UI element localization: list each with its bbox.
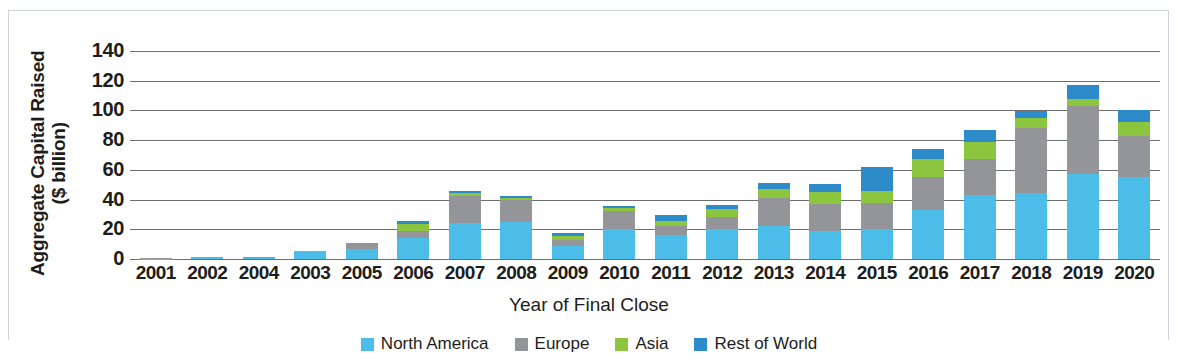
- bar-2018[interactable]: [1015, 111, 1047, 259]
- chart-legend: North AmericaEuropeAsiaRest of World: [0, 334, 1178, 354]
- bar-segment-2006-north-america: [397, 238, 429, 259]
- legend-item-rest-of-world[interactable]: Rest of World: [694, 334, 817, 354]
- bar-slot-2013: [748, 51, 800, 259]
- legend-swatch-asia: [615, 338, 628, 351]
- x-tick-label-2020: 2020: [1109, 262, 1161, 284]
- legend-item-asia[interactable]: Asia: [615, 334, 668, 354]
- y-tick-label-80: 80: [34, 128, 124, 151]
- x-tick-label-2014: 2014: [800, 262, 852, 284]
- bar-segment-2007-europe: [449, 196, 481, 223]
- x-tick-label-2016: 2016: [903, 262, 955, 284]
- bar-2001[interactable]: [140, 258, 172, 259]
- bar-2002[interactable]: [191, 257, 223, 259]
- bar-2004[interactable]: [243, 257, 275, 259]
- bar-segment-2017-north-america: [964, 195, 996, 259]
- bar-2009[interactable]: [552, 233, 584, 259]
- bar-slot-2005: [336, 51, 388, 259]
- x-axis-labels: 2001200220042003200520062007200820092010…: [130, 262, 1160, 284]
- page-border-left: [8, 10, 9, 340]
- x-axis-title: Year of Final Close: [0, 294, 1178, 316]
- bar-slot-2020: [1109, 51, 1161, 259]
- bar-2005[interactable]: [346, 243, 378, 259]
- bar-segment-2016-rest-of-world: [912, 149, 944, 159]
- bar-segment-2015-asia: [861, 191, 893, 203]
- x-tick-label-2004: 2004: [233, 262, 285, 284]
- bar-segment-2018-north-america: [1015, 193, 1047, 259]
- bar-segment-2013-rest-of-world: [758, 183, 790, 190]
- bar-slot-2002: [182, 51, 234, 259]
- bar-slot-2009: [542, 51, 594, 259]
- bar-2008[interactable]: [500, 196, 532, 259]
- bar-segment-2012-north-america: [706, 229, 738, 259]
- bar-segment-2008-north-america: [500, 222, 532, 259]
- y-tick-label-100: 100: [34, 98, 124, 121]
- legend-swatch-europe: [515, 338, 528, 351]
- bar-segment-2017-asia: [964, 142, 996, 159]
- bar-segment-2019-north-america: [1067, 174, 1099, 259]
- bar-segment-2014-rest-of-world: [809, 184, 841, 192]
- legend-item-north-america[interactable]: North America: [361, 334, 489, 354]
- bar-segment-2006-asia: [397, 224, 429, 231]
- y-tick-label-40: 40: [34, 188, 124, 211]
- bar-slot-2010: [594, 51, 646, 259]
- bar-slot-2015: [851, 51, 903, 259]
- bar-2017[interactable]: [964, 130, 996, 259]
- legend-label-europe: Europe: [535, 334, 590, 354]
- bar-2010[interactable]: [603, 206, 635, 259]
- bar-segment-2015-europe: [861, 203, 893, 230]
- bar-segment-2018-rest-of-world: [1015, 111, 1047, 118]
- bar-segment-2018-asia: [1015, 118, 1047, 128]
- bar-slot-2018: [1006, 51, 1058, 259]
- bar-segment-2014-europe: [809, 204, 841, 231]
- bar-segment-2008-europe: [500, 200, 532, 222]
- bar-segment-2016-north-america: [912, 210, 944, 259]
- bar-slot-2011: [645, 51, 697, 259]
- bar-2016[interactable]: [912, 149, 944, 259]
- x-tick-label-2001: 2001: [130, 262, 182, 284]
- bar-segment-2020-europe: [1118, 136, 1150, 178]
- x-tick-label-2012: 2012: [697, 262, 749, 284]
- x-tick-label-2010: 2010: [594, 262, 646, 284]
- gridline-0: [130, 259, 1160, 260]
- bar-2003[interactable]: [294, 251, 326, 259]
- bar-2019[interactable]: [1067, 85, 1099, 259]
- bar-2007[interactable]: [449, 191, 481, 259]
- bar-slot-2017: [954, 51, 1006, 259]
- bar-segment-2020-asia: [1118, 122, 1150, 136]
- bar-2012[interactable]: [706, 205, 738, 259]
- bar-2013[interactable]: [758, 183, 790, 259]
- x-tick-label-2011: 2011: [645, 262, 697, 284]
- legend-label-north-america: North America: [381, 334, 489, 354]
- bar-2014[interactable]: [809, 184, 841, 259]
- bar-segment-2014-north-america: [809, 231, 841, 259]
- bar-segment-2012-europe: [706, 217, 738, 229]
- bar-slot-2012: [697, 51, 749, 259]
- bar-segment-2020-north-america: [1118, 177, 1150, 259]
- x-tick-label-2006: 2006: [388, 262, 440, 284]
- x-tick-label-2009: 2009: [542, 262, 594, 284]
- bar-slot-2007: [439, 51, 491, 259]
- bar-segment-2013-asia: [758, 189, 790, 198]
- bar-segment-2003-north-america: [294, 252, 326, 259]
- legend-swatch-north-america: [361, 338, 374, 351]
- bar-segment-2016-asia: [912, 159, 944, 177]
- page-border-top: [8, 10, 1168, 11]
- bar-segment-2017-europe: [964, 159, 996, 195]
- bar-segment-2017-rest-of-world: [964, 130, 996, 142]
- x-tick-label-2003: 2003: [285, 262, 337, 284]
- x-tick-label-2002: 2002: [182, 262, 234, 284]
- bar-2020[interactable]: [1118, 110, 1150, 259]
- y-tick-label-20: 20: [34, 217, 124, 240]
- x-tick-label-2013: 2013: [748, 262, 800, 284]
- x-tick-label-2007: 2007: [439, 262, 491, 284]
- bar-2015[interactable]: [861, 167, 893, 259]
- x-tick-label-2018: 2018: [1006, 262, 1058, 284]
- y-tick-label-120: 120: [34, 69, 124, 92]
- bar-segment-2011-europe: [655, 226, 687, 236]
- bar-2011[interactable]: [655, 215, 687, 259]
- legend-item-europe[interactable]: Europe: [515, 334, 590, 354]
- bar-segment-2013-north-america: [758, 226, 790, 259]
- legend-swatch-rest-of-world: [694, 338, 707, 351]
- x-tick-label-2005: 2005: [336, 262, 388, 284]
- bar-2006[interactable]: [397, 221, 429, 259]
